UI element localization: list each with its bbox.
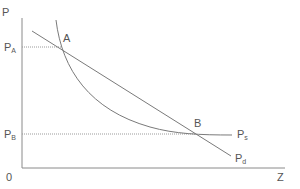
chart-canvas: P 0 Z PA PB A B Ps Pd [0, 0, 300, 189]
point-a-label: A [63, 32, 71, 44]
pd-label: Pd [235, 152, 246, 165]
pa-label: PA [4, 41, 16, 54]
origin-label: 0 [6, 171, 12, 183]
pb-label: PB [4, 128, 16, 141]
pd-line [32, 31, 231, 156]
y-axis-label: P [2, 6, 9, 18]
x-axis-label: Z [277, 171, 284, 183]
ps-label: Ps [237, 128, 248, 141]
ps-curve [56, 20, 232, 135]
point-b-label: B [194, 117, 201, 129]
